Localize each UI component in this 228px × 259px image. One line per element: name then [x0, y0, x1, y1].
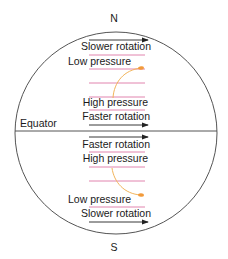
flow-path-south	[112, 168, 141, 195]
low-pressure-label-south: Low pressure	[68, 193, 131, 205]
low-pressure-label-north: Low pressure	[68, 55, 131, 67]
high-pressure-label-south: High pressure	[83, 152, 149, 164]
southern-hemisphere: Faster rotation High pressure Low pressu…	[68, 137, 151, 222]
faster-rotation-label-south: Faster rotation	[82, 138, 150, 150]
north-pole-label: N	[110, 12, 118, 24]
equator-label: Equator	[20, 117, 57, 129]
slower-rotation-label-north: Slower rotation	[81, 40, 151, 52]
high-pressure-label-north: High pressure	[83, 96, 149, 108]
globe-diagram: N S Equator Slower rotation Low pressure…	[0, 0, 228, 259]
south-pole-label: S	[110, 241, 117, 253]
faster-rotation-label-north: Faster rotation	[82, 110, 150, 122]
slower-rotation-label-south: Slower rotation	[81, 207, 151, 219]
northern-hemisphere: Slower rotation Low pressure High pressu…	[68, 40, 151, 125]
